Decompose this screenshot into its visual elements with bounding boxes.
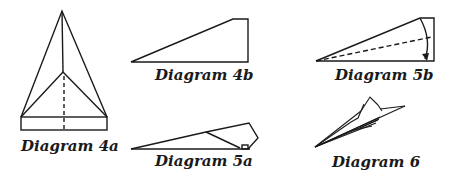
diagram-4b-caption: Diagram 4b [155, 68, 254, 83]
diagram-5b-caption: Diagram 5b [335, 68, 434, 83]
diagram-4b-figure [131, 19, 248, 62]
diagram-5a-caption: Diagram 5a [155, 154, 253, 169]
diagram-6-figure [315, 97, 405, 147]
diagram-4a-caption: Diagram 4a [21, 139, 119, 154]
diagram-5a-figure [131, 123, 258, 149]
diagram-6-caption: Diagram 6 [332, 155, 420, 170]
diagram-5b-figure [316, 18, 434, 61]
diagram-4a-figure [21, 11, 107, 130]
